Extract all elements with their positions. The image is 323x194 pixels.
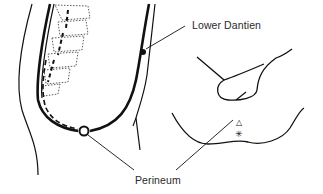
lower-dantien-label: Lower Dantien	[192, 19, 261, 31]
spine-vertebrae	[42, 5, 90, 96]
lower-dantien-point	[140, 49, 146, 55]
triangle-symbol: △	[236, 118, 243, 127]
back-channel-thick	[38, 4, 78, 131]
anatomy-diagram: △ ✳	[0, 0, 323, 194]
asterisk-symbol: ✳	[235, 129, 243, 139]
inset-upper-shape-2	[224, 64, 264, 80]
perineum-point	[80, 127, 89, 136]
perineum-leader-right	[176, 120, 233, 170]
front-channel-thick	[90, 4, 149, 131]
perineum-label: Perineum	[135, 174, 181, 186]
perineum-leader	[88, 135, 134, 170]
back-outline	[19, 4, 38, 175]
leg-line	[133, 118, 136, 126]
